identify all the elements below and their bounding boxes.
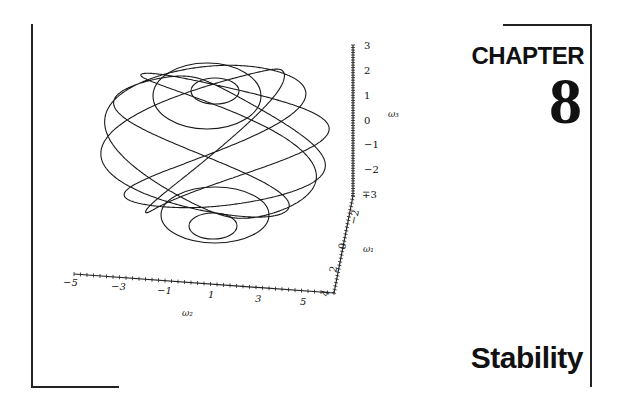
w2-tick-label: −5: [63, 277, 78, 288]
axis-tick: [333, 286, 337, 287]
w1-tick-label: 0: [336, 242, 348, 251]
trajectory-path: [101, 65, 329, 218]
axis-tick: [337, 265, 341, 266]
w3-tick-label: 2: [364, 65, 370, 76]
w3-axis-label: ω₃: [388, 109, 399, 119]
trajectory-curve: [101, 63, 329, 243]
trajectory-loop: [189, 213, 237, 239]
axis-tick: [339, 254, 343, 255]
axis-tick: [350, 203, 354, 204]
w1-tick-label: 2: [327, 265, 339, 274]
axis-tick: [333, 289, 337, 290]
trajectory-loop: [191, 78, 239, 104]
trajectory-figure: 3 2 1 0 −1 −2 ∓3 ω₃ −2 0 2 4 ω₁ −5 −3 −1…: [0, 0, 639, 406]
axis-tick: [335, 275, 339, 276]
trajectory-loop: [161, 187, 269, 243]
axis-tick: [344, 230, 348, 231]
axis-tick: [334, 282, 338, 283]
w3-tick-label: ∓3: [362, 189, 377, 200]
trajectory-loop: [153, 63, 261, 129]
w1-tick-label: −2: [347, 209, 361, 226]
axis-tick: [349, 206, 353, 207]
w2-tick-label: −1: [157, 285, 172, 296]
axis-tick: [340, 251, 344, 252]
axis-tick: [344, 234, 348, 235]
w1-axis-label: ω₁: [363, 244, 374, 254]
w3-tick-label: −2: [364, 164, 379, 175]
w2-tick-label: 3: [255, 293, 261, 304]
w3-tick-label: 3: [364, 40, 370, 51]
w3-tick-label: −1: [364, 139, 379, 150]
w3-tick-label: 1: [364, 90, 370, 101]
axis-tick: [335, 279, 339, 280]
axis-tick: [339, 258, 343, 259]
w2-axis: −5 −3 −1 1 3 5 ω₂: [63, 272, 334, 318]
axis-tick: [338, 261, 342, 262]
w1-axis: −2 0 2 4 ω₁: [319, 196, 374, 298]
w2-tick-label: −3: [111, 281, 126, 292]
axis-tick: [350, 199, 354, 200]
w3-tick-label: 0: [364, 115, 370, 126]
axis-tick: [343, 237, 347, 238]
w2-tick-label: 5: [300, 296, 306, 307]
w2-axis-label: ω₂: [182, 308, 193, 318]
w2-tick-label: 1: [208, 289, 214, 300]
axis-tick: [345, 227, 349, 228]
axis-tick: [342, 241, 346, 242]
w3-axis: 3 2 1 0 −1 −2 ∓3 ω₃: [351, 40, 399, 200]
